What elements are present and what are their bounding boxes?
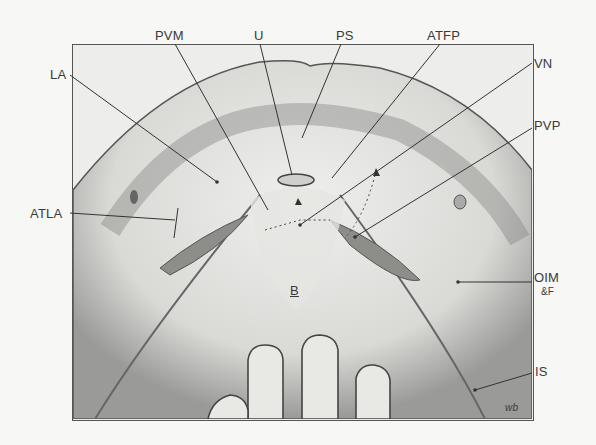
label-pvp: PVP [534, 118, 561, 133]
label-pvm: PVM [155, 28, 184, 43]
label-oim: OIM [534, 270, 559, 285]
artist-signature: wb [505, 402, 518, 413]
label-is: IS [535, 364, 548, 379]
label-f: &F [541, 286, 554, 297]
label-b: B [290, 283, 299, 298]
label-vn: VN [534, 56, 552, 71]
label-la: LA [50, 67, 66, 82]
label-atfp: ATFP [427, 28, 460, 43]
label-ps: PS [336, 28, 354, 43]
label-u: U [254, 28, 264, 43]
anatomical-illustration [0, 0, 596, 445]
label-atla: ATLA [30, 206, 62, 221]
